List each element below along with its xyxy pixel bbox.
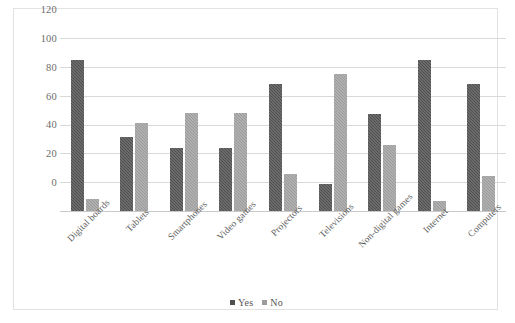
y-tick-label-20: 20 (46, 148, 57, 159)
bar-no (383, 145, 396, 211)
x-label-slot: Video games (209, 213, 259, 291)
bar-yes (269, 84, 282, 211)
legend-item-no: No (262, 297, 283, 308)
bar-group (258, 38, 308, 211)
legend-swatch-icon (262, 300, 267, 305)
bar-yes (219, 148, 232, 211)
y-axis-tick-labels: 020406080100120 (27, 9, 57, 182)
y-tick-label-40: 40 (46, 119, 57, 130)
legend-label: Yes (238, 297, 253, 308)
bar-yes (170, 148, 183, 211)
bar-group (159, 38, 209, 211)
x-label-slot: Projectors (258, 213, 308, 291)
bar-yes (418, 60, 431, 211)
x-label-slot: Computers (457, 213, 507, 291)
x-label-slot: Smartphones (159, 213, 209, 291)
bar-no (185, 113, 198, 211)
bar-group (457, 38, 507, 211)
y-tick-label-120: 120 (41, 4, 57, 15)
legend-item-yes: Yes (230, 297, 253, 308)
legend-label: No (270, 297, 283, 308)
x-label-slot: Tablets (110, 213, 160, 291)
chart-legend: YesNo (14, 297, 499, 308)
legend-swatch-icon (230, 300, 235, 305)
y-tick-label-0: 0 (52, 177, 57, 188)
x-label-slot: Televisions (308, 213, 358, 291)
bar-group (407, 38, 457, 211)
bar-yes (368, 114, 381, 211)
bar-group (110, 38, 160, 211)
bar-yes (319, 184, 332, 211)
bar-groups (60, 38, 506, 211)
bar-no (234, 113, 247, 211)
x-label-slot: Non-digital games (357, 213, 407, 291)
bar-yes (71, 60, 84, 211)
bar-group (60, 38, 110, 211)
bar-no (334, 74, 347, 211)
bar-group (209, 38, 259, 211)
bar-yes (120, 137, 133, 211)
y-tick-label-80: 80 (46, 61, 57, 72)
x-label-slot: Internet (407, 213, 457, 291)
bar-no (135, 123, 148, 211)
x-label-slot: Digital boards (60, 213, 110, 291)
bar-yes (467, 84, 480, 211)
x-axis-category-labels: Digital boardsTabletsSmartphonesVideo ga… (60, 213, 506, 291)
y-tick-label-100: 100 (41, 32, 57, 43)
chart-frame: 020406080100120 Digital boardsTabletsSma… (13, 8, 498, 310)
y-tick-label-60: 60 (46, 90, 57, 101)
bar-chart: 020406080100120 Digital boardsTabletsSma… (0, 0, 515, 323)
bar-group (357, 38, 407, 211)
bar-group (308, 38, 358, 211)
